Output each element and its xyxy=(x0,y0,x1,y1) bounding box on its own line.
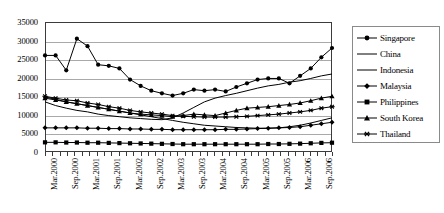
legend-item-south-korea[interactable]: South Korea xyxy=(356,110,437,126)
series-philippines xyxy=(43,140,334,146)
data-point-marker xyxy=(54,53,58,57)
y-axis-tick-label: 10000 xyxy=(17,111,38,120)
x-axis-tick xyxy=(207,152,208,156)
x-axis-tick xyxy=(280,152,281,156)
x-axis-tick xyxy=(325,152,326,156)
data-point-marker xyxy=(43,53,47,57)
data-point-marker xyxy=(54,140,58,144)
data-point-marker xyxy=(308,109,313,113)
x-axis-tick-label: Mar.2001 xyxy=(92,158,101,190)
data-point-marker xyxy=(149,127,154,132)
x-axis-tick xyxy=(288,152,289,156)
data-point-marker xyxy=(364,132,370,136)
x-axis-tick xyxy=(177,152,178,156)
legend-label: Indonesia xyxy=(380,66,413,75)
x-axis-tick-label: Sep.2006 xyxy=(325,158,334,189)
data-point-marker xyxy=(213,127,218,132)
x-axis-tick xyxy=(45,152,46,156)
data-point-marker xyxy=(244,115,249,119)
legend-item-philippines[interactable]: Philippines xyxy=(356,94,437,110)
y-axis-tick-label: 20000 xyxy=(17,73,38,82)
data-point-marker xyxy=(244,126,249,131)
x-axis-tick xyxy=(200,152,201,156)
data-point-marker xyxy=(329,105,334,109)
x-axis-ticks xyxy=(45,152,332,157)
data-point-marker xyxy=(213,142,217,146)
x-axis-tick xyxy=(214,152,215,156)
series-singapore xyxy=(43,37,334,98)
legend-key-icon xyxy=(356,63,378,77)
data-point-marker xyxy=(319,121,324,126)
data-point-marker xyxy=(160,142,164,146)
data-point-marker xyxy=(287,111,292,115)
data-point-marker xyxy=(266,76,270,80)
data-point-marker xyxy=(319,141,323,145)
x-axis-tick-label: Mar.2004 xyxy=(219,158,228,190)
data-point-marker xyxy=(96,141,100,145)
data-point-marker xyxy=(117,66,121,70)
x-axis-tick-label: Sep.2005 xyxy=(283,158,292,189)
data-point-marker xyxy=(181,91,185,95)
data-point-marker xyxy=(276,112,281,116)
x-axis-tick xyxy=(97,152,98,156)
legend-label: South Korea xyxy=(380,114,423,123)
data-point-marker xyxy=(181,127,186,132)
data-point-marker xyxy=(117,141,121,145)
legend-key-icon xyxy=(356,47,378,61)
data-point-marker xyxy=(329,94,334,99)
x-axis-tick xyxy=(89,152,90,156)
y-axis-tick-label: 30000 xyxy=(17,36,38,45)
series-layer xyxy=(45,22,332,152)
data-point-marker xyxy=(309,141,313,145)
x-axis-tick-label: Sep.2003 xyxy=(198,158,207,189)
legend-item-china[interactable]: China xyxy=(356,46,437,62)
data-point-marker xyxy=(170,127,175,132)
x-axis-tick xyxy=(141,152,142,156)
x-axis-tick xyxy=(185,152,186,156)
data-point-marker xyxy=(298,110,303,114)
legend-label: Singapore xyxy=(380,34,415,43)
data-point-marker xyxy=(117,126,122,131)
x-axis-tick xyxy=(310,152,311,156)
data-point-marker xyxy=(330,141,334,145)
data-point-marker xyxy=(330,46,334,50)
legend-label: China xyxy=(380,50,401,59)
data-point-marker xyxy=(277,142,281,146)
x-axis-tick xyxy=(111,152,112,156)
data-point-marker xyxy=(43,140,47,144)
data-point-marker xyxy=(170,93,174,97)
x-axis-tick xyxy=(266,152,267,156)
x-axis-tick xyxy=(60,152,61,156)
x-axis-tick xyxy=(163,152,164,156)
x-axis-tick xyxy=(222,152,223,156)
x-axis-tick xyxy=(251,152,252,156)
x-axis-tick xyxy=(229,152,230,156)
legend-key-icon xyxy=(356,79,378,93)
data-point-marker xyxy=(139,141,143,145)
x-axis-tick xyxy=(82,152,83,156)
legend-item-indonesia[interactable]: Indonesia xyxy=(356,62,437,78)
data-point-marker xyxy=(43,125,48,130)
data-point-marker xyxy=(213,88,217,92)
legend-item-malaysia[interactable]: Malaysia xyxy=(356,78,437,94)
data-point-marker xyxy=(96,63,100,67)
x-axis-tick xyxy=(192,152,193,156)
x-axis-tick xyxy=(67,152,68,156)
data-point-marker xyxy=(224,89,228,93)
data-point-marker xyxy=(149,142,153,146)
legend-item-thailand[interactable]: Thailand xyxy=(356,126,437,142)
legend: SingaporeChinaIndonesiaMalaysiaPhilippin… xyxy=(352,26,440,143)
data-point-marker xyxy=(53,125,58,130)
data-point-marker xyxy=(128,77,132,81)
legend-item-singapore[interactable]: Singapore xyxy=(356,30,437,46)
legend-label: Philippines xyxy=(380,98,418,107)
data-point-marker xyxy=(191,127,196,132)
y-axis-tick-label: 25000 xyxy=(17,55,38,64)
data-point-marker xyxy=(245,81,249,85)
x-axis-tick-label: Sep.2000 xyxy=(71,158,80,189)
x-axis-tick xyxy=(104,152,105,156)
y-axis-tick-label: 5000 xyxy=(21,129,38,138)
data-point-marker xyxy=(64,140,68,144)
data-point-marker xyxy=(85,126,90,131)
x-axis-tick-label: Mar.2000 xyxy=(50,158,59,190)
